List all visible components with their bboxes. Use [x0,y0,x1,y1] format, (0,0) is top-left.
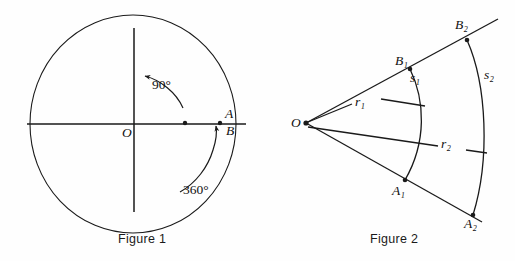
label-angle-360: 360° [183,183,209,197]
upper-ray [306,19,498,123]
label-point-a: A [225,107,233,121]
figure-1-graphic [27,15,246,233]
lower-ray [306,123,482,222]
radius-r1-segment-left [308,104,352,122]
radius-r1-segment-right [381,99,425,106]
arc-s2 [467,40,484,215]
label-point-b2: B₂ [455,18,468,32]
label-origin-figure1: O [122,126,132,140]
arc-s1 [405,69,421,180]
label-angle-90: 90° [152,78,171,92]
label-radius-r2: r₂ [441,137,451,151]
label-point-b1: B₁ [395,54,408,68]
figure-2-caption: Figure 2 [370,232,418,246]
figures-drawing [0,0,515,261]
label-radius-r1: r₁ [355,95,365,109]
angle-90-start-dot [183,121,187,125]
vertex-o-dot [303,120,308,125]
figure-1-caption: Figure 1 [118,232,166,246]
point-b2-dot [465,38,470,43]
label-arc-s1: s₁ [410,71,420,85]
label-arc-s2: s₂ [484,68,494,82]
label-point-b: B [226,124,234,138]
point-ab-dot [218,121,222,125]
point-a1-dot [403,178,408,183]
label-point-a1: A₁ [392,184,405,198]
figure-page: O A B 90° 360° O B₁ B₂ A₁ A₂ s₁ s₂ r₁ r₂… [0,0,515,261]
label-vertex-figure2: O [291,116,301,130]
label-point-a2: A₂ [464,217,477,231]
